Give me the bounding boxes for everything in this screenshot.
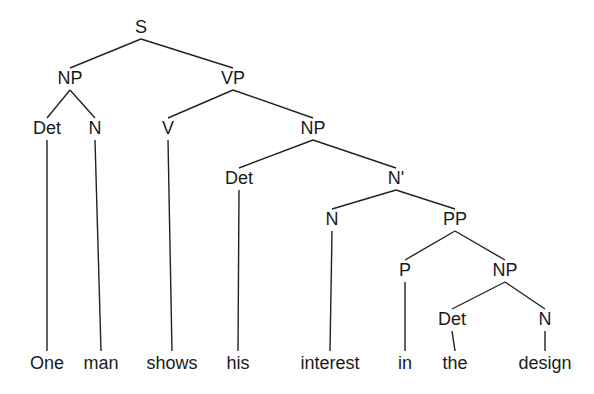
- tree-node-np3: NP: [492, 260, 517, 280]
- syntax-tree-canvas: SNPVPDetNVNPDetN'NPPPNPDetN Onemanshowsh…: [0, 0, 594, 394]
- tree-branch-s-to-vp: [141, 39, 233, 68]
- tree-node-det3: Det: [438, 309, 466, 329]
- tree-branch-np2-to-nbar: [313, 140, 396, 168]
- tree-leaf-w-man: man: [83, 353, 118, 373]
- tree-leaf-layer: Onemanshowshisinterestinthedesign: [30, 353, 572, 373]
- tree-branch-np3-to-n3: [505, 282, 545, 309]
- tree-branch-nbar-to-pp: [396, 190, 455, 209]
- tree-node-np2: NP: [300, 118, 325, 138]
- tree-node-n3: N: [539, 309, 552, 329]
- tree-stem-w-man: [95, 140, 101, 351]
- tree-leaf-stem-layer: [47, 140, 545, 351]
- tree-node-p: P: [399, 260, 411, 280]
- tree-branch-np1-to-det1: [47, 90, 70, 118]
- tree-stem-w-the: [452, 331, 455, 351]
- tree-branch-nbar-to-n2: [332, 190, 396, 209]
- tree-leaf-w-his: his: [226, 353, 249, 373]
- tree-node-layer: SNPVPDetNVNPDetN'NPPPNPDetN: [33, 17, 552, 329]
- tree-leaf-w-interest: interest: [300, 353, 359, 373]
- tree-leaf-w-shows: shows: [146, 353, 197, 373]
- tree-branch-np1-to-n1: [70, 90, 95, 118]
- tree-node-nbar: N': [388, 168, 404, 188]
- tree-node-det1: Det: [33, 118, 61, 138]
- tree-node-vp: VP: [221, 68, 245, 88]
- syntax-tree-figure: SNPVPDetNVNPDetN'NPPPNPDetN Onemanshowsh…: [0, 0, 594, 394]
- tree-node-pp: PP: [443, 209, 467, 229]
- tree-leaf-w-in: in: [398, 353, 412, 373]
- tree-stem-w-interest: [330, 231, 332, 351]
- tree-branch-vp-to-v: [168, 90, 233, 118]
- tree-node-det2: Det: [225, 168, 253, 188]
- tree-branch-vp-to-np2: [233, 90, 313, 118]
- tree-leaf-w-design: design: [518, 353, 571, 373]
- tree-branch-np3-to-det3: [452, 282, 505, 309]
- tree-stem-w-his: [238, 190, 239, 351]
- tree-edge-layer: [47, 39, 545, 309]
- tree-node-n1: N: [89, 118, 102, 138]
- tree-node-v: V: [162, 118, 174, 138]
- tree-node-np1: NP: [57, 68, 82, 88]
- tree-branch-pp-to-p: [405, 231, 455, 260]
- tree-node-s: S: [135, 17, 147, 37]
- tree-leaf-w-the: the: [442, 353, 467, 373]
- tree-branch-pp-to-np3: [455, 231, 505, 260]
- tree-node-n2: N: [326, 209, 339, 229]
- tree-branch-np2-to-det2: [239, 140, 313, 168]
- tree-branch-s-to-np1: [70, 39, 141, 68]
- tree-stem-w-shows: [168, 140, 172, 351]
- tree-leaf-w-one: One: [30, 353, 64, 373]
